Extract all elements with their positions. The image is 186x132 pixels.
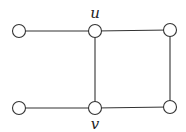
- edge-v-d: [95, 107, 170, 108]
- edge-u-b: [95, 30, 170, 31]
- node-d: [164, 101, 177, 114]
- node-a: [13, 25, 26, 38]
- node-v: [89, 102, 102, 115]
- node-c: [13, 102, 26, 115]
- node-u: [89, 25, 102, 38]
- graph-diagram: u v: [0, 0, 186, 132]
- label-v: v: [91, 115, 100, 132]
- label-u: u: [90, 4, 100, 22]
- node-b: [164, 24, 177, 37]
- edges: [19, 30, 170, 108]
